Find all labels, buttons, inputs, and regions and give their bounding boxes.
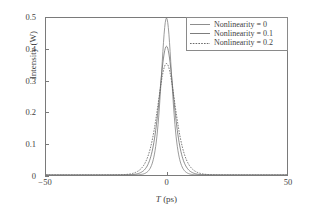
- y-tick-mark: [45, 144, 49, 145]
- y-tick-mark: [45, 81, 49, 82]
- legend-item[interactable]: Nonlinearity = 0: [189, 20, 284, 29]
- legend-line-swatch: [189, 29, 211, 38]
- y-tick-mark: [45, 112, 49, 113]
- legend-label: Nonlinearity = 0.1: [211, 30, 273, 38]
- y-tick-label: 0.1: [25, 140, 36, 149]
- legend-label: Nonlinearity = 0: [211, 21, 267, 29]
- y-tick-mark: [45, 49, 49, 50]
- x-tick-label: 0: [164, 178, 168, 187]
- y-tick-label: 0.2: [25, 108, 36, 117]
- x-axis-tick-labels: −50050: [0, 178, 310, 192]
- legend-item[interactable]: Nonlinearity = 0.2: [189, 39, 284, 48]
- y-tick-mark: [45, 17, 49, 18]
- x-axis-title-variable: T: [156, 194, 161, 204]
- y-axis-tick-labels: 00.10.20.30.40.5: [0, 17, 41, 176]
- legend-line-swatch: [189, 20, 211, 29]
- x-tick-mark: [167, 172, 168, 176]
- y-tick-mark: [45, 176, 49, 177]
- chart-figure: Intensity (W) 00.10.20.30.40.5 −50050 T …: [0, 0, 310, 217]
- y-tick-label: 0.3: [25, 76, 36, 85]
- legend-label: Nonlinearity = 0.2: [211, 39, 273, 47]
- x-axis-title: T (ps): [45, 194, 288, 204]
- legend-item[interactable]: Nonlinearity = 0.1: [189, 29, 284, 38]
- x-axis-title-unit: (ps): [163, 194, 177, 204]
- legend-box: Nonlinearity = 0Nonlinearity = 0.1Nonlin…: [186, 17, 288, 51]
- series-line-2: [46, 64, 287, 175]
- x-tick-label: 50: [284, 178, 293, 187]
- y-tick-label: 0.5: [25, 13, 36, 22]
- legend-line-swatch: [189, 39, 211, 48]
- y-tick-label: 0.4: [25, 45, 36, 54]
- series-line-1: [46, 46, 287, 175]
- x-tick-label: −50: [38, 178, 51, 187]
